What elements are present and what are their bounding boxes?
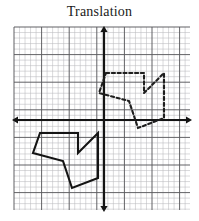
coordinate-plane xyxy=(0,0,199,221)
axis-arrowhead-left xyxy=(12,116,18,123)
preimage-polygon xyxy=(33,133,98,188)
translation-figure: Translation xyxy=(0,0,199,221)
grid-major-lines xyxy=(14,27,190,210)
axis-arrowhead-right xyxy=(186,116,192,123)
axes xyxy=(12,26,192,212)
